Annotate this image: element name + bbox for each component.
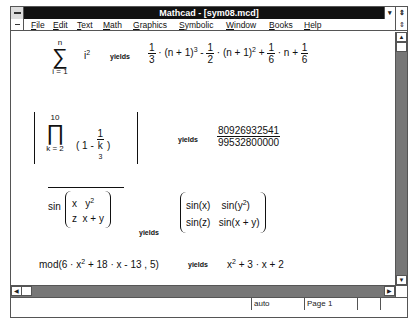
menu-graphics[interactable]: Graphics xyxy=(133,19,167,31)
horizontal-scrollbar[interactable]: ◀ ▶ xyxy=(11,285,395,297)
worksheet[interactable]: n ∑ i = 1 i2 yields 13 · (n + 1)3 - 12 ·… xyxy=(12,32,394,284)
minimize-button[interactable]: ▾ xyxy=(384,7,395,19)
status-bar: auto Page 1 xyxy=(11,297,407,317)
scroll-down-button[interactable]: ▼ xyxy=(396,275,407,285)
mod-result: x2 + 3 · x + 2 xyxy=(227,258,284,270)
scroll-right-button[interactable]: ▶ xyxy=(384,286,395,296)
mathcad-window: Mathcad - [sym08.mcd] ▾ ⇕ File Edit Text… xyxy=(10,6,408,318)
yields-keyword: yields xyxy=(139,229,159,236)
sum-result: 13 · (n + 1)3 - 12 · (n + 1)2 + 16 · n +… xyxy=(148,42,308,65)
horizontal-scroll-thumb[interactable] xyxy=(21,286,32,296)
vectorize-func: sin xyxy=(48,201,61,212)
menu-symbolic[interactable]: Symbolic xyxy=(179,19,213,31)
vertical-scroll-thumb[interactable] xyxy=(396,42,407,52)
menu-edit[interactable]: Edit xyxy=(53,19,68,31)
sum-operator: n ∑ i = 1 xyxy=(49,38,71,76)
status-page: Page 1 xyxy=(304,298,356,310)
menu-math[interactable]: Math xyxy=(103,19,122,31)
vectorize-arrow xyxy=(48,187,124,188)
document-restore-button[interactable]: ⇕ xyxy=(395,19,407,30)
title-bar[interactable]: Mathcad - [sym08.mcd] ▾ ⇕ xyxy=(11,7,407,19)
document-system-menu-button[interactable] xyxy=(11,19,24,30)
window-title: Mathcad - [sym08.mcd] xyxy=(159,8,259,18)
system-menu-button[interactable] xyxy=(11,7,24,19)
menu-bar: File Edit Text Math Graphics Symbolic Wi… xyxy=(11,19,407,31)
result-matrix: sin(x) sin(y2) sin(z) sin(x + y) xyxy=(180,192,266,233)
status-mode: auto xyxy=(251,298,303,310)
vertical-scrollbar[interactable]: ▲ ▼ xyxy=(395,32,407,285)
status-cell-empty-1 xyxy=(357,298,380,310)
product-term: ( 1 - 1k3 ) xyxy=(76,128,110,165)
sigma-symbol: ∑ xyxy=(49,47,71,67)
sum-term: i2 xyxy=(84,49,90,61)
yields-keyword: yields xyxy=(178,136,198,143)
menu-file[interactable]: File xyxy=(31,19,45,31)
menu-books[interactable]: Books xyxy=(269,19,293,31)
input-matrix: x y2 z x + y xyxy=(65,191,111,228)
restore-button[interactable]: ⇕ xyxy=(395,7,407,19)
pi-symbol: ∏ xyxy=(39,122,71,144)
scrollbar-corner xyxy=(395,285,407,297)
menu-help[interactable]: Help xyxy=(304,19,321,31)
product-result: 8092693254199532800000 xyxy=(217,125,280,148)
status-cell-empty-2 xyxy=(380,298,407,310)
mod-expression: mod(6 · x2 + 18 · x - 13 , 5) xyxy=(39,258,159,270)
yields-keyword: yields xyxy=(110,53,130,60)
yields-keyword: yields xyxy=(188,261,208,268)
menu-text[interactable]: Text xyxy=(77,19,93,31)
scroll-up-button[interactable]: ▲ xyxy=(396,32,407,42)
product-operator: 10 ∏ k = 2 xyxy=(39,113,71,153)
menu-window[interactable]: Window xyxy=(226,19,256,31)
